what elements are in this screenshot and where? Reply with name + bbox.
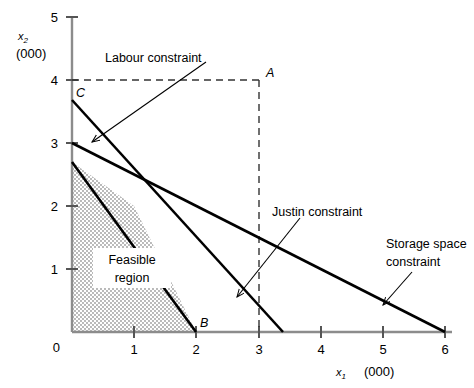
feasible-region-label-line1: Feasible bbox=[108, 253, 155, 267]
y-tick-label-5: 5 bbox=[51, 10, 58, 25]
origin-label: 0 bbox=[53, 340, 60, 355]
storage-constraint-label-line1: Storage space bbox=[386, 237, 467, 251]
justin-constraint-label: Justin constraint bbox=[272, 205, 363, 219]
x-tick-label-5: 5 bbox=[379, 342, 386, 357]
y-tick-label-1: 1 bbox=[51, 262, 58, 277]
feasible-region-label-line2: region bbox=[115, 271, 150, 285]
x-axis-title-sub: 1 bbox=[342, 372, 346, 381]
labour-leader-line bbox=[92, 62, 206, 142]
chart-canvas: 5 4 3 2 1 0 1 2 3 4 5 6 x2 (000) x1 (000… bbox=[0, 0, 474, 388]
point-label-c: C bbox=[76, 86, 86, 100]
x-tick-label-4: 4 bbox=[317, 342, 324, 357]
x-axis-title: x1 bbox=[335, 366, 346, 381]
y-tick-label-3: 3 bbox=[51, 136, 58, 151]
storage-constraint-label-line2: constraint bbox=[386, 255, 441, 269]
y-axis-title: x2 bbox=[17, 30, 29, 45]
lp-graph-figure: 5 4 3 2 1 0 1 2 3 4 5 6 x2 (000) x1 (000… bbox=[0, 0, 474, 388]
y-tick-label-2: 2 bbox=[51, 199, 58, 214]
x-tick-label-6: 6 bbox=[441, 342, 448, 357]
y-axis-title-sub: 2 bbox=[23, 36, 29, 45]
y-axis-unit: (000) bbox=[16, 46, 46, 61]
x-tick-label-2: 2 bbox=[192, 342, 199, 357]
point-label-b: B bbox=[200, 316, 208, 330]
x-tick-label-3: 3 bbox=[255, 342, 262, 357]
justin-leader-line bbox=[237, 218, 300, 297]
x-tick-label-1: 1 bbox=[130, 342, 137, 357]
labour-constraint-label: Labour constraint bbox=[105, 51, 202, 65]
x-axis-unit: (000) bbox=[364, 364, 394, 379]
storage-leader-line bbox=[383, 272, 412, 305]
point-label-a: A bbox=[265, 66, 274, 80]
y-tick-label-4: 4 bbox=[51, 73, 58, 88]
